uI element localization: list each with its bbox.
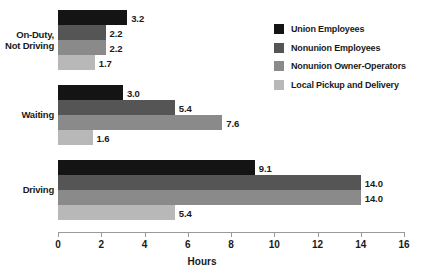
bar-row: 14.0 — [58, 175, 404, 190]
bar — [58, 100, 175, 115]
x-axis-tick — [101, 232, 102, 237]
x-axis-tick — [274, 232, 275, 237]
bar — [58, 205, 175, 220]
legend-item[interactable]: Nonunion Employees — [274, 41, 406, 55]
bar-value-label: 3.2 — [131, 12, 144, 23]
bar — [58, 85, 123, 100]
bar-value-label: 14.0 — [365, 192, 383, 203]
bar — [58, 160, 255, 175]
bar-value-label: 5.4 — [179, 102, 192, 113]
legend-label: Nonunion Employees — [291, 43, 380, 53]
legend-label: Nonunion Owner-Operators — [291, 61, 406, 71]
x-axis-tick-label: 10 — [269, 239, 280, 250]
bar-value-label: 7.6 — [226, 117, 239, 128]
bar-row: 9.1 — [58, 160, 404, 175]
bar-row: 5.4 — [58, 100, 404, 115]
bar — [58, 190, 361, 205]
bar-value-label: 3.0 — [127, 87, 140, 98]
bar — [58, 175, 361, 190]
x-axis: 0246810121416 — [58, 232, 404, 233]
bar-row: 7.6 — [58, 115, 404, 130]
x-axis-tick — [58, 232, 59, 237]
bar-value-label: 9.1 — [259, 162, 272, 173]
bar — [58, 40, 106, 55]
bar-value-label: 2.2 — [110, 27, 123, 38]
category-label-line1: Driving — [23, 184, 54, 195]
legend-swatch-icon — [274, 80, 284, 90]
bar-chart: On-Duty, Not Driving Waiting Driving 3.2… — [0, 0, 425, 278]
category-label-driving: Driving — [0, 160, 54, 220]
x-axis-tick — [231, 232, 232, 237]
category-label-waiting: Waiting — [0, 85, 54, 145]
x-axis-tick-label: 12 — [312, 239, 323, 250]
legend-swatch-icon — [274, 24, 284, 34]
legend-swatch-icon — [274, 61, 284, 71]
legend: Union EmployeesNonunion EmployeesNonunio… — [274, 22, 406, 96]
x-axis-tick-label: 14 — [355, 239, 366, 250]
bar-value-label: 5.4 — [179, 207, 192, 218]
x-axis-tick-label: 8 — [228, 239, 234, 250]
legend-label: Union Employees — [291, 24, 364, 34]
x-axis-tick — [145, 232, 146, 237]
bar-row: 14.0 — [58, 190, 404, 205]
category-label-line2: Not Driving — [5, 40, 54, 51]
legend-item[interactable]: Union Employees — [274, 22, 406, 36]
legend-item[interactable]: Nonunion Owner-Operators — [274, 59, 406, 73]
x-axis-tick-label: 4 — [142, 239, 148, 250]
bar — [58, 115, 222, 130]
bar — [58, 10, 127, 25]
legend-label: Local Pickup and Delivery — [291, 80, 399, 90]
x-axis-tick — [404, 232, 405, 237]
category-label-line1: Waiting — [21, 109, 54, 120]
x-axis-title: Hours — [0, 256, 404, 267]
bar-row: 5.4 — [58, 205, 404, 220]
x-axis-tick-label: 16 — [398, 239, 409, 250]
bar — [58, 25, 106, 40]
category-label-line1: On-Duty, — [16, 29, 54, 40]
x-axis-tick-label: 0 — [55, 239, 61, 250]
bar-value-label: 2.2 — [110, 42, 123, 53]
category-label-on-duty-not-driving: On-Duty, Not Driving — [0, 10, 54, 70]
bar-value-label: 1.6 — [97, 132, 110, 143]
bar-row: 1.6 — [58, 130, 404, 145]
bar-value-label: 1.7 — [99, 57, 112, 68]
x-axis-tick-label: 2 — [98, 239, 104, 250]
bar — [58, 130, 93, 145]
x-axis-tick — [361, 232, 362, 237]
legend-item[interactable]: Local Pickup and Delivery — [274, 78, 406, 92]
x-axis-tick-label: 6 — [185, 239, 191, 250]
x-axis-tick — [188, 232, 189, 237]
bar — [58, 55, 95, 70]
legend-swatch-icon — [274, 43, 284, 53]
x-axis-tick — [318, 232, 319, 237]
bar-value-label: 14.0 — [365, 177, 383, 188]
